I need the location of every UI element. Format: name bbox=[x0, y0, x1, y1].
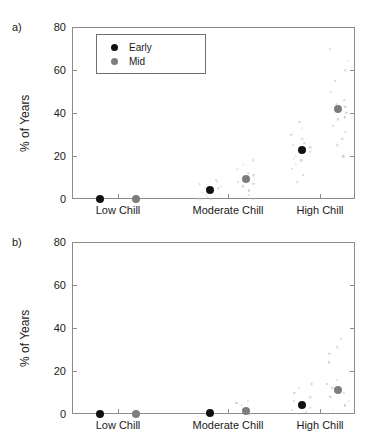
scatter-point bbox=[328, 353, 331, 356]
scatter-point bbox=[327, 361, 330, 364]
scatter-point bbox=[199, 198, 202, 201]
scatter-point bbox=[301, 137, 304, 140]
y-tick-label: 60 bbox=[36, 279, 66, 291]
y-tick-mark bbox=[72, 285, 77, 286]
data-point-early bbox=[96, 195, 104, 203]
scatter-point bbox=[202, 192, 204, 194]
y-tick-mark bbox=[350, 285, 355, 286]
scatter-point bbox=[206, 196, 208, 198]
y-tick-label: 80 bbox=[36, 21, 66, 33]
scatter-point bbox=[292, 144, 294, 146]
legend-label-mid: Mid bbox=[129, 56, 145, 67]
scatter-point bbox=[296, 180, 299, 183]
x-tick-mark bbox=[320, 409, 321, 414]
scatter-point bbox=[220, 185, 222, 187]
y-tick-mark bbox=[350, 371, 355, 372]
scatter-point bbox=[241, 404, 243, 406]
scatter-point bbox=[252, 198, 254, 200]
y-tick-label: 0 bbox=[36, 193, 66, 205]
x-tick-label-low-chill: Low Chill bbox=[96, 419, 141, 431]
x-tick-mark bbox=[118, 409, 119, 414]
panel-b-label: b) bbox=[12, 236, 22, 248]
scatter-point bbox=[332, 409, 334, 411]
data-point-early bbox=[206, 409, 214, 417]
legend-entry-early: Early bbox=[103, 40, 197, 54]
y-tick-mark bbox=[72, 113, 77, 114]
y-tick-label: 20 bbox=[36, 365, 66, 377]
data-point-mid bbox=[242, 175, 250, 183]
scatter-point bbox=[211, 198, 213, 200]
y-tick-label: 60 bbox=[36, 64, 66, 76]
y-tick-mark bbox=[72, 328, 77, 329]
data-point-mid bbox=[132, 410, 140, 418]
scatter-point bbox=[254, 407, 256, 409]
y-tick-mark bbox=[72, 156, 77, 157]
legend-label-early: Early bbox=[129, 42, 152, 53]
legend-entry-mid: Mid bbox=[103, 54, 197, 68]
scatter-point bbox=[243, 164, 245, 166]
x-tick-label-moderate-chill: Moderate Chill bbox=[193, 419, 264, 431]
data-point-early bbox=[96, 410, 104, 418]
panel-a: a) % of Years 020406080 Low ChillModerat… bbox=[0, 0, 371, 221]
figure-container: a) % of Years 020406080 Low ChillModerat… bbox=[0, 0, 371, 442]
scatter-point bbox=[342, 155, 345, 158]
scatter-point bbox=[332, 125, 334, 127]
scatter-point bbox=[344, 132, 346, 134]
panel-b: b) % of Years 020406080 Low ChillModerat… bbox=[0, 213, 371, 442]
scatter-point bbox=[216, 180, 219, 183]
data-point-early bbox=[298, 401, 306, 409]
scatter-point bbox=[237, 181, 239, 183]
scatter-point bbox=[217, 187, 219, 189]
scatter-point bbox=[309, 146, 312, 149]
panel-b-y-axis-title: % of Years bbox=[18, 310, 32, 367]
scatter-point bbox=[334, 80, 336, 82]
panel-a-y-axis-title: % of Years bbox=[18, 95, 32, 152]
scatter-point bbox=[247, 172, 249, 174]
legend: Early Mid bbox=[96, 34, 206, 74]
data-point-mid bbox=[132, 195, 140, 203]
y-tick-label: 40 bbox=[36, 107, 66, 119]
scatter-point bbox=[294, 163, 297, 166]
scatter-point bbox=[236, 167, 239, 170]
data-point-early bbox=[206, 186, 214, 194]
scatter-point bbox=[347, 60, 349, 62]
scatter-point bbox=[309, 406, 312, 409]
scatter-point bbox=[344, 69, 347, 72]
y-tick-label: 80 bbox=[36, 236, 66, 248]
scatter-point bbox=[198, 183, 201, 186]
scatter-point bbox=[215, 179, 217, 181]
legend-marker-mid-icon bbox=[111, 58, 118, 65]
data-point-mid bbox=[334, 105, 342, 113]
scatter-point bbox=[293, 400, 295, 402]
y-tick-mark bbox=[72, 70, 77, 71]
x-tick-mark bbox=[118, 194, 119, 199]
y-tick-label: 20 bbox=[36, 150, 66, 162]
data-point-mid bbox=[242, 407, 250, 415]
y-tick-mark bbox=[350, 70, 355, 71]
y-tick-mark bbox=[72, 371, 77, 372]
scatter-point bbox=[310, 382, 313, 385]
x-tick-mark bbox=[228, 409, 229, 414]
y-tick-mark bbox=[350, 113, 355, 114]
scatter-point bbox=[336, 346, 339, 349]
scatter-point bbox=[298, 387, 300, 389]
x-tick-label-high-chill: High Chill bbox=[296, 419, 343, 431]
y-tick-label: 0 bbox=[36, 408, 66, 420]
panel-b-plot-area bbox=[72, 242, 355, 414]
data-point-mid bbox=[334, 386, 342, 394]
y-tick-mark bbox=[350, 156, 355, 157]
legend-marker-early-icon bbox=[111, 44, 118, 51]
scatter-point bbox=[348, 400, 350, 402]
panel-a-label: a) bbox=[12, 21, 22, 33]
scatter-point bbox=[252, 174, 255, 177]
scatter-point bbox=[298, 413, 300, 415]
scatter-point bbox=[290, 133, 293, 136]
scatter-point bbox=[341, 138, 344, 141]
scatter-point bbox=[309, 150, 312, 153]
x-tick-mark bbox=[228, 194, 229, 199]
scatter-point bbox=[309, 395, 312, 398]
scatter-point bbox=[300, 159, 303, 162]
scatter-point bbox=[247, 400, 249, 402]
y-tick-mark bbox=[350, 328, 355, 329]
scatter-point bbox=[301, 127, 303, 129]
